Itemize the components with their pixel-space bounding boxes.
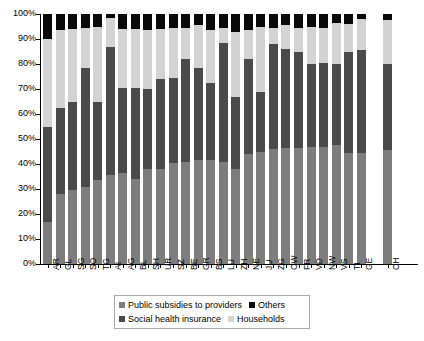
bar-segment	[169, 28, 178, 78]
bar-segment	[332, 14, 341, 23]
y-axis-tick	[36, 139, 40, 140]
x-axis-tick	[336, 264, 337, 268]
bar-segment	[68, 190, 77, 264]
bar-segment	[294, 14, 303, 28]
bar-so	[81, 14, 90, 264]
x-axis-tick	[198, 264, 199, 268]
bar-segment	[106, 18, 115, 47]
bar-segment	[383, 14, 392, 20]
bar-gr	[194, 14, 203, 264]
bar-segment	[118, 173, 127, 264]
stacked-bar-chart: 0%10%20%30%40%50%60%70%80%90%100% Public…	[0, 0, 424, 341]
bar-segment	[244, 30, 253, 59]
bar-segment	[269, 44, 278, 149]
bar-gl	[56, 14, 65, 264]
bar-segment	[56, 30, 65, 108]
legend-swatch-icon-others	[249, 302, 255, 308]
bar-ar	[43, 14, 52, 264]
bar-nw	[319, 14, 328, 264]
bar-segment	[68, 102, 77, 191]
x-axis-tick	[123, 264, 124, 268]
bar-segment	[383, 64, 392, 150]
legend-row-1: Public subsidies to providers Others	[119, 298, 305, 312]
bar-segment	[93, 27, 102, 102]
legend-item-households: Households	[228, 314, 285, 324]
bar-segment	[256, 14, 265, 27]
bars-container	[41, 14, 418, 264]
bar-segment	[143, 169, 152, 264]
bar-segment	[93, 180, 102, 264]
bar-segment	[256, 152, 265, 265]
legend-item-public-subsidies: Public subsidies to providers	[119, 300, 242, 310]
bar-segment	[106, 47, 115, 176]
bar-segment	[194, 160, 203, 264]
bar-segment	[357, 14, 366, 19]
bar-segment	[307, 14, 316, 27]
x-axis-tick	[160, 264, 161, 268]
bar-vd	[307, 14, 316, 264]
bar-segment	[281, 148, 290, 264]
x-axis-tick	[48, 264, 49, 268]
bar-segment	[156, 14, 165, 29]
bar-segment	[181, 28, 190, 59]
y-axis-tick	[36, 39, 40, 40]
x-axis-tick	[110, 264, 111, 268]
bar-ne	[244, 14, 253, 264]
bar-segment	[294, 52, 303, 148]
bar-segment	[43, 127, 52, 222]
y-axis-tick-label: 100%	[2, 9, 36, 18]
bar-zg	[269, 14, 278, 264]
bar-segment	[194, 68, 203, 161]
y-axis-tick-label: 10%	[2, 234, 36, 243]
bar-ai	[106, 14, 115, 264]
y-axis-tick	[36, 214, 40, 215]
bar-segment	[357, 153, 366, 264]
bar-fr	[294, 14, 303, 264]
bar-segment	[143, 14, 152, 30]
legend-swatch-icon-public-subsidies	[119, 302, 125, 308]
bar-segment	[56, 194, 65, 264]
bar-segment	[294, 148, 303, 264]
x-axis-tick	[248, 264, 249, 268]
legend-swatch-icon-social-health-insurance	[119, 316, 125, 322]
x-axis-tick	[186, 264, 187, 268]
bar-segment	[319, 63, 328, 147]
x-axis-tick	[135, 264, 136, 268]
bar-ch	[383, 14, 392, 264]
bar-segment	[181, 59, 190, 162]
x-axis-tick	[98, 264, 99, 268]
bar-segment	[281, 25, 290, 49]
bar-sh	[143, 14, 152, 264]
bar-segment	[383, 150, 392, 264]
x-axis-tick	[273, 264, 274, 268]
bar-segment	[231, 97, 240, 170]
bar-segment	[344, 153, 353, 264]
y-axis-tick	[36, 189, 40, 190]
bar-segment	[206, 30, 215, 83]
bar-segment	[169, 163, 178, 264]
bar-segment	[156, 169, 165, 264]
bar-segment	[256, 27, 265, 92]
bar-segment	[357, 19, 366, 50]
bar-segment	[332, 145, 341, 264]
x-axis-tick	[286, 264, 287, 268]
bar-segment	[156, 29, 165, 79]
bar-segment	[106, 14, 115, 18]
bar-ur	[156, 14, 165, 264]
bar-segment	[169, 78, 178, 163]
x-axis-tick-label: CH	[392, 258, 401, 270]
bar-segment	[81, 28, 90, 68]
bar-segment	[156, 79, 165, 169]
y-axis-tick	[36, 114, 40, 115]
bar-segment	[43, 39, 52, 127]
bar-zh	[231, 14, 240, 264]
bar-bl	[131, 14, 140, 264]
chart-legend: Public subsidies to providers Others Soc…	[114, 295, 310, 329]
bar-segment	[143, 89, 152, 169]
bar-segment	[231, 169, 240, 264]
y-axis-tick	[36, 239, 40, 240]
bar-be	[181, 14, 190, 264]
legend-item-others: Others	[249, 300, 285, 310]
bar-segment	[93, 14, 102, 27]
bar-segment	[244, 59, 253, 154]
